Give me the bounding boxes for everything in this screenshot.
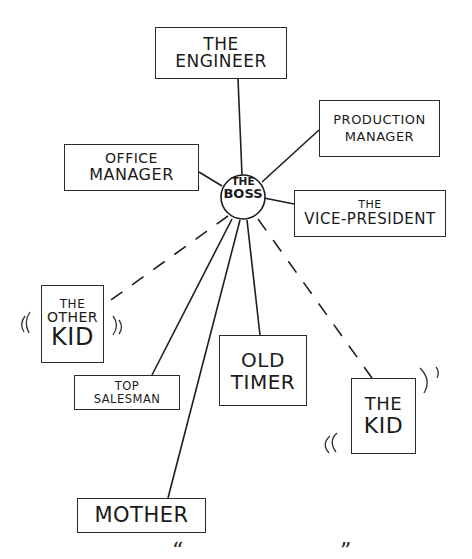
- wiggle-mark: [113, 316, 117, 335]
- boss-line2: BOSS: [223, 186, 262, 201]
- node-label: OLD: [241, 349, 285, 371]
- node-label: VICE-PRESIDENT: [304, 211, 435, 228]
- link-old-timer: [247, 220, 260, 335]
- link-other-kid: [104, 216, 228, 305]
- connector-layer: [0, 0, 472, 559]
- node-engineer: THE ENGINEER: [155, 27, 287, 79]
- link-production-manager: [262, 130, 319, 182]
- node-top-salesman: TOP SALESMAN: [74, 375, 180, 410]
- node-label: KID: [51, 325, 94, 350]
- wiggle-mark: [325, 436, 330, 453]
- link-vice-president: [264, 198, 294, 204]
- node-label: MANAGER: [345, 129, 414, 146]
- node-the-kid: THE KID: [351, 378, 416, 454]
- node-label: KID: [364, 414, 403, 438]
- node-label: OFFICE: [105, 150, 158, 166]
- wiggle-mark: [332, 433, 337, 452]
- node-other-kid: THE OTHER KID: [41, 285, 104, 363]
- boss-node: THE BOSS: [221, 176, 265, 201]
- node-label: ENGINEER: [175, 53, 267, 70]
- wiggle-mark: [22, 316, 25, 332]
- node-label: TIMER: [231, 371, 295, 393]
- node-old-timer: OLD TIMER: [219, 335, 307, 406]
- link-office-manager: [199, 172, 222, 186]
- node-label: SALESMAN: [94, 393, 161, 406]
- node-label: TOP: [115, 380, 140, 393]
- node-label: MANAGER: [89, 166, 174, 184]
- node-label: MOTHER: [94, 505, 188, 526]
- wiggle-mark: [119, 320, 122, 334]
- node-office-manager: OFFICE MANAGER: [64, 144, 199, 191]
- node-label: THE: [365, 394, 402, 414]
- node-vice-president: THE VICE-PRESIDENT: [294, 190, 446, 237]
- wiggle-mark: [420, 368, 427, 393]
- wiggle-mark: [26, 312, 30, 333]
- node-label: PRODUCTION: [333, 112, 425, 129]
- node-mother: MOTHER: [77, 498, 206, 533]
- wiggle-mark: [436, 367, 438, 378]
- link-engineer: [238, 79, 242, 175]
- node-production-manager: PRODUCTION MANAGER: [319, 100, 440, 157]
- caption-close-quote: ”: [340, 538, 351, 559]
- caption-open-quote: “: [172, 538, 183, 559]
